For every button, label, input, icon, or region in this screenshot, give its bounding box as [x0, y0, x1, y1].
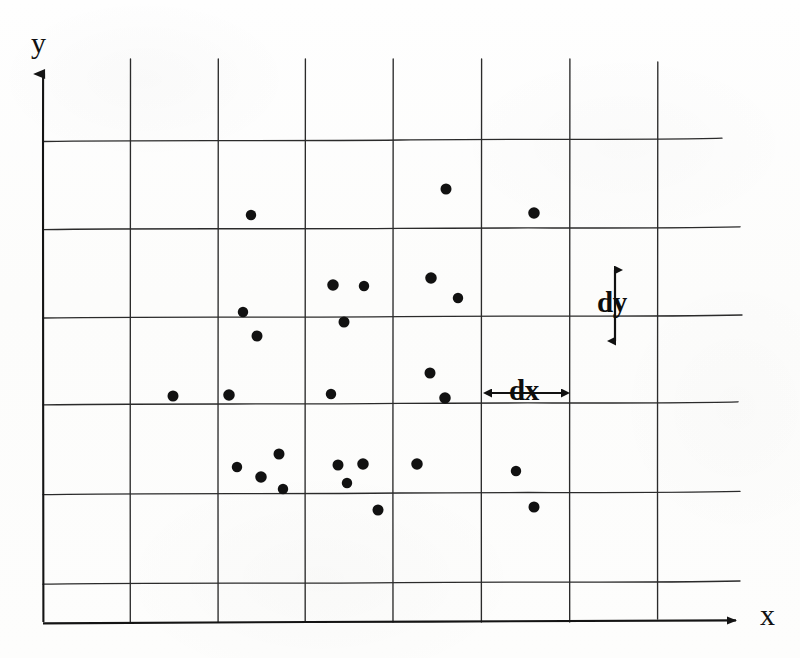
scatter-point [232, 462, 242, 472]
scatter-point [238, 307, 248, 317]
dy-label: dy [597, 288, 627, 317]
scatter-point [528, 207, 540, 219]
grid-scatter-plot [0, 0, 800, 658]
scatter-point [373, 505, 384, 516]
dx-label: dx [509, 376, 539, 405]
scatter-point [339, 317, 350, 328]
scatter-point-group [168, 184, 540, 516]
scatter-point [359, 281, 369, 291]
scatter-point [252, 331, 263, 342]
scatter-point [333, 460, 344, 471]
figure-canvas: y x dy dx [0, 0, 800, 658]
x-axis-label: x [760, 600, 775, 630]
scatter-point [278, 484, 288, 494]
scatter-point [511, 466, 521, 476]
scatter-point [326, 389, 336, 399]
grid-vertical-lines [130, 59, 658, 622]
scatter-point [453, 293, 463, 303]
scatter-point [246, 210, 256, 220]
scatter-point [425, 272, 437, 284]
scatter-point [439, 392, 451, 404]
scatter-point [357, 458, 369, 470]
scatter-point [411, 458, 423, 470]
scatter-point [274, 449, 285, 460]
scatter-point [255, 471, 267, 483]
scatter-point [342, 478, 352, 488]
scatter-point [327, 279, 339, 291]
scatter-point [425, 368, 436, 379]
scatter-point [168, 391, 179, 402]
scatter-point [529, 502, 540, 513]
scatter-point [223, 389, 235, 401]
x-axis-line [43, 620, 736, 623]
scatter-point [441, 184, 452, 195]
y-axis-label: y [31, 28, 46, 58]
